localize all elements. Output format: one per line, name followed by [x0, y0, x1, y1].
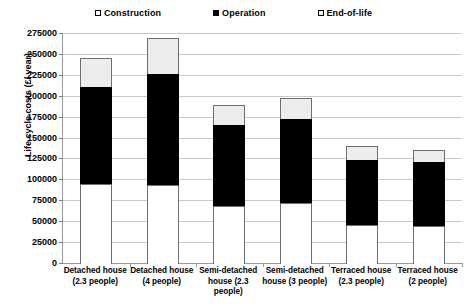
x-axis-label: Semi-detachedhouse (2.3people) — [195, 266, 262, 298]
chart-legend: Construction Operation End-of-life — [0, 8, 467, 18]
x-axis-label: Detached house(4 people) — [129, 266, 196, 287]
bar-segment-construction[interactable] — [280, 203, 312, 264]
bar-group[interactable] — [396, 33, 463, 263]
x-axis-label-line: (2 people) — [395, 277, 462, 288]
stacked-bar-chart: Construction Operation End-of-life Life … — [0, 0, 467, 307]
y-axis-tick-label: 50000 — [0, 216, 57, 226]
bar-segment-construction[interactable] — [213, 206, 245, 264]
legend-swatch-construction-icon — [95, 10, 101, 16]
bar-segment-operation[interactable] — [147, 74, 179, 186]
legend-item-operation: Operation — [213, 8, 265, 18]
y-axis-tick-label: 275000 — [0, 28, 57, 38]
x-axis-label-line: Detached house — [62, 266, 129, 277]
y-axis-tick-label: 150000 — [0, 133, 57, 143]
x-axis-label-line: (4 people) — [129, 277, 196, 288]
x-axis-label: Terraced house(2 people) — [395, 266, 462, 287]
bar-segment-construction[interactable] — [147, 185, 179, 264]
bar-stack[interactable] — [213, 105, 245, 263]
legend-label-endoflife: End-of-life — [327, 8, 373, 18]
legend-label-operation: Operation — [222, 8, 265, 18]
x-axis-label: Terraced house(2.3 people) — [328, 266, 395, 287]
x-axis-label: Semi-detachedhouse (3 people) — [262, 266, 329, 287]
bar-segment-endoflife[interactable] — [213, 105, 245, 126]
y-axis-tick-label: 200000 — [0, 91, 57, 101]
x-axis-label-line: (2.3 people) — [62, 277, 129, 288]
y-axis-tick-label: 100000 — [0, 174, 57, 184]
bar-group[interactable] — [130, 33, 197, 263]
x-axis-label: Detached house(2.3 people) — [62, 266, 129, 287]
bar-segment-endoflife[interactable] — [147, 38, 179, 75]
y-axis-tick-label: 0 — [0, 258, 57, 268]
bar-segment-operation[interactable] — [346, 160, 378, 226]
bar-segment-construction[interactable] — [413, 226, 445, 264]
x-axis-label-line: Semi-detached — [195, 266, 262, 277]
legend-swatch-endoflife-icon — [318, 10, 324, 16]
bar-segment-endoflife[interactable] — [346, 146, 378, 161]
y-axis-tick-label: 225000 — [0, 70, 57, 80]
bar-stack[interactable] — [147, 38, 179, 263]
bar-stack[interactable] — [413, 150, 445, 263]
bar-stack[interactable] — [80, 58, 112, 263]
bar-group[interactable] — [263, 33, 330, 263]
bar-segment-construction[interactable] — [80, 184, 112, 264]
bar-segment-operation[interactable] — [280, 119, 312, 204]
y-axis-tick-label: 25000 — [0, 237, 57, 247]
y-axis-tick-label: 75000 — [0, 195, 57, 205]
y-axis-tick-label: 250000 — [0, 49, 57, 59]
bar-group[interactable] — [196, 33, 263, 263]
legend-swatch-operation-icon — [213, 10, 219, 16]
y-axis-tick-label: 125000 — [0, 153, 57, 163]
bars-layer — [63, 33, 462, 263]
x-axis-label-line: people) — [195, 287, 262, 298]
bar-stack[interactable] — [280, 98, 312, 263]
bar-group[interactable] — [63, 33, 130, 263]
x-axis-label-line: house (3 people) — [262, 277, 329, 288]
bar-segment-operation[interactable] — [213, 125, 245, 207]
bar-segment-endoflife[interactable] — [280, 98, 312, 120]
x-axis-label-line: house (2.3 — [195, 277, 262, 288]
y-axis-tick — [59, 263, 63, 264]
x-axis-label-line: Semi-detached — [262, 266, 329, 277]
bar-stack[interactable] — [346, 146, 378, 263]
bar-segment-construction[interactable] — [346, 225, 378, 264]
bar-segment-operation[interactable] — [80, 87, 112, 185]
bar-segment-endoflife[interactable] — [80, 58, 112, 88]
x-axis-label-line: Detached house — [129, 266, 196, 277]
x-axis-tick — [462, 263, 463, 267]
legend-item-construction: Construction — [95, 8, 161, 18]
x-axis-label-line: Terraced house — [395, 266, 462, 277]
bar-segment-operation[interactable] — [413, 162, 445, 227]
y-axis-tick-label: 175000 — [0, 112, 57, 122]
x-axis-label-line: (2.3 people) — [328, 277, 395, 288]
plot-area: 0250005000075000100000125000150000175000… — [62, 33, 462, 264]
x-axis-labels: Detached house(2.3 people)Detached house… — [62, 266, 461, 306]
x-axis-label-line: Terraced house — [328, 266, 395, 277]
bar-group[interactable] — [329, 33, 396, 263]
legend-label-construction: Construction — [104, 8, 161, 18]
legend-item-endoflife: End-of-life — [318, 8, 373, 18]
